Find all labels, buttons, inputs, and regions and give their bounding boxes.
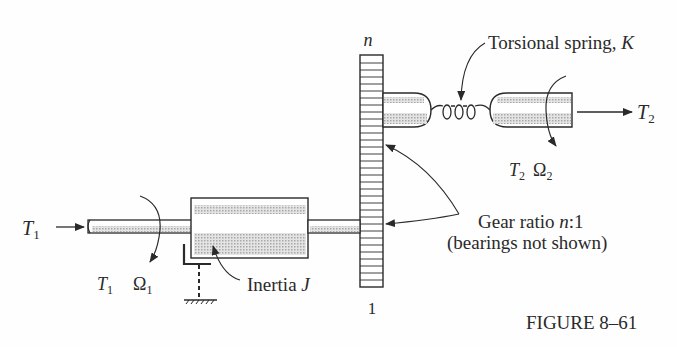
gear-label-1: 1	[368, 299, 377, 318]
inertia-label: Inertia J	[247, 274, 311, 295]
output-torque-speed-label: T2Ω2	[509, 160, 552, 183]
gear-ratio-leader-upper-arrow-icon	[386, 145, 459, 214]
gear-wheel	[360, 55, 383, 287]
input-shaft	[88, 220, 192, 233]
gear-output-stub	[383, 93, 431, 127]
gear-ratio-leader-lower-arrow-icon	[386, 214, 459, 224]
spring-leader-arrow-icon	[461, 43, 485, 100]
figure-caption: FIGURE 8–61	[526, 312, 637, 333]
torsional-spring	[431, 105, 490, 119]
inertia-cylinder	[191, 198, 308, 258]
bearings-note: (bearings not shown)	[447, 232, 607, 254]
output-torque-label: T2	[637, 101, 655, 126]
intermediate-shaft	[308, 220, 360, 233]
spring-label: Torsional spring, K	[488, 32, 635, 53]
gear-spring-system-drawing: n 1 T2 T2Ω2 Torsional spring, K T1 T1Ω1	[0, 0, 677, 347]
figure-8-61-diagram: n 1 T2 T2Ω2 Torsional spring, K T1 T1Ω1	[0, 0, 677, 347]
input-torque-speed-label: T1Ω1	[97, 274, 152, 297]
gear-label-n: n	[364, 30, 373, 50]
gear-ratio-label: Gear ratio n:1	[478, 211, 584, 232]
input-torque-label: T1	[22, 217, 40, 242]
output-shaft	[490, 93, 572, 127]
